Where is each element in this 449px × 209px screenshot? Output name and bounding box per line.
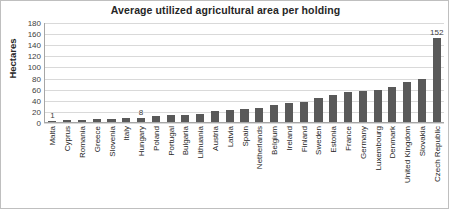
bar-slot xyxy=(163,23,178,122)
bar[interactable] xyxy=(285,103,293,122)
y-axis-title: Hectares xyxy=(7,29,18,89)
x-axis-label-slot: Austria xyxy=(208,124,223,208)
bar[interactable] xyxy=(107,119,115,122)
y-axis-tick-label: 180 xyxy=(28,19,41,28)
bar[interactable] xyxy=(314,98,322,122)
bar-slot: 1 xyxy=(45,23,60,122)
bar[interactable] xyxy=(93,119,101,122)
x-axis-label-slot: Latvia xyxy=(222,124,237,208)
x-axis-label: Portugal xyxy=(166,126,175,156)
x-axis-label-slot: Malta xyxy=(45,124,60,208)
x-axis-label-slot: United Kingdom xyxy=(400,124,415,208)
x-axis-label: Hungary xyxy=(137,126,146,156)
x-axis-label: Romania xyxy=(77,126,86,158)
bar[interactable] xyxy=(63,120,71,122)
x-axis-label: Italy xyxy=(122,126,131,141)
bar[interactable] xyxy=(211,111,219,122)
bar[interactable] xyxy=(270,105,278,122)
x-axis-label-slot: Bulgaria xyxy=(178,124,193,208)
bar-slot xyxy=(119,23,134,122)
bar[interactable] xyxy=(388,87,396,122)
bar[interactable] xyxy=(226,110,234,122)
bar[interactable] xyxy=(48,121,56,122)
y-axis-tick-label: 140 xyxy=(28,41,41,50)
x-axis-label-slot: Romania xyxy=(75,124,90,208)
x-axis-label: Austria xyxy=(210,126,219,151)
x-axis-label: Finland xyxy=(299,126,308,152)
bar[interactable] xyxy=(196,114,204,122)
bar[interactable] xyxy=(152,116,160,122)
bar-slot xyxy=(415,23,430,122)
x-axis-label: Sweden xyxy=(314,126,323,155)
bar-slot xyxy=(282,23,297,122)
bar-slot xyxy=(208,23,223,122)
bar[interactable] xyxy=(137,118,145,122)
x-axis-label: Greece xyxy=(92,126,101,152)
y-axis-tick-label: 100 xyxy=(28,63,41,72)
bar[interactable] xyxy=(167,115,175,122)
x-axis-label: Lithuania xyxy=(196,126,205,158)
x-axis-label-slot: Czech Republic xyxy=(429,124,444,208)
bar-slot xyxy=(267,23,282,122)
x-axis-label: Cyprus xyxy=(63,126,72,151)
bar[interactable] xyxy=(300,102,308,122)
bar[interactable] xyxy=(181,115,189,122)
bar-value-label: 1 xyxy=(50,111,54,120)
bar[interactable] xyxy=(240,109,248,122)
bar[interactable] xyxy=(359,91,367,122)
x-axis-category-labels: MaltaCyprusRomaniaGreeceSloveniaItalyHun… xyxy=(45,124,444,208)
bar[interactable] xyxy=(403,82,411,122)
bar-slot xyxy=(296,23,311,122)
x-axis-label-slot: Estonia xyxy=(326,124,341,208)
y-axis-tick-label: 0 xyxy=(37,119,41,128)
x-axis-label-slot: Netherlands xyxy=(252,124,267,208)
x-axis-label: Bulgaria xyxy=(181,126,190,155)
bar-slot xyxy=(178,23,193,122)
y-axis-tick-label: 60 xyxy=(32,85,41,94)
x-axis-label: Germany xyxy=(358,126,367,159)
bar[interactable] xyxy=(418,79,426,122)
y-axis-tick-label: 80 xyxy=(32,74,41,83)
x-axis-label-slot: Belgium xyxy=(267,124,282,208)
bar-slot xyxy=(355,23,370,122)
bar[interactable] xyxy=(433,38,441,122)
bar-slot xyxy=(385,23,400,122)
x-axis-label: Luxembourg xyxy=(373,126,382,170)
y-axis-tick-label: 20 xyxy=(32,107,41,116)
bar[interactable] xyxy=(344,92,352,122)
bar-slot xyxy=(104,23,119,122)
bar-slot xyxy=(193,23,208,122)
x-axis-label-slot: Cyprus xyxy=(60,124,75,208)
x-axis-label-slot: Ireland xyxy=(282,124,297,208)
x-axis-label-slot: Italy xyxy=(119,124,134,208)
x-axis-label: Estonia xyxy=(329,126,338,153)
x-axis-label-slot: France xyxy=(341,124,356,208)
x-axis-label: Denmark xyxy=(388,126,397,158)
x-axis-label: Netherlands xyxy=(255,126,264,169)
bar[interactable] xyxy=(329,95,337,122)
bar[interactable] xyxy=(255,108,263,122)
bar[interactable] xyxy=(78,120,86,122)
x-axis-label-slot: Portugal xyxy=(163,124,178,208)
bar[interactable] xyxy=(122,118,130,122)
x-axis-label-slot: Slovakia xyxy=(415,124,430,208)
x-axis-label: United Kingdom xyxy=(403,126,412,183)
bar-slot: 8 xyxy=(134,23,149,122)
bar-slot xyxy=(89,23,104,122)
x-axis-label-slot: Luxembourg xyxy=(370,124,385,208)
bar-slot xyxy=(252,23,267,122)
x-axis-label: Poland xyxy=(151,126,160,151)
bar-slot xyxy=(311,23,326,122)
x-axis-label-slot: Lithuania xyxy=(193,124,208,208)
bar[interactable] xyxy=(374,90,382,122)
x-axis-label-slot: Denmark xyxy=(385,124,400,208)
x-axis-label: Spain xyxy=(240,126,249,146)
bar-slot xyxy=(148,23,163,122)
y-axis-tick-label: 160 xyxy=(28,30,41,39)
x-axis-label-slot: Germany xyxy=(355,124,370,208)
bar-slot xyxy=(400,23,415,122)
bar-slot xyxy=(60,23,75,122)
x-axis-label: Ireland xyxy=(284,126,293,150)
bar-slot xyxy=(341,23,356,122)
x-axis-label-slot: Sweden xyxy=(311,124,326,208)
